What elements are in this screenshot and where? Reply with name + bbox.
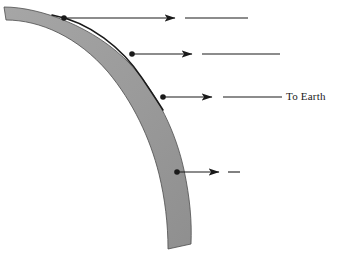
ray-arrow-3-origin-dot [160, 94, 166, 100]
ray-arrow-1-origin-dot [61, 15, 67, 21]
band-shape [4, 7, 191, 249]
ray-arrow-1 [61, 15, 248, 21]
ray-arrow-2 [129, 51, 280, 57]
to-earth-label: To Earth [286, 90, 326, 102]
curved-arc-band [4, 7, 191, 249]
ray-arrow-4-origin-dot [174, 169, 180, 175]
diagram-svg [0, 0, 343, 260]
diagram-canvas: To Earth [0, 0, 343, 260]
ray-arrow-3 [160, 94, 282, 100]
ray-arrow-2-origin-dot [129, 51, 135, 57]
